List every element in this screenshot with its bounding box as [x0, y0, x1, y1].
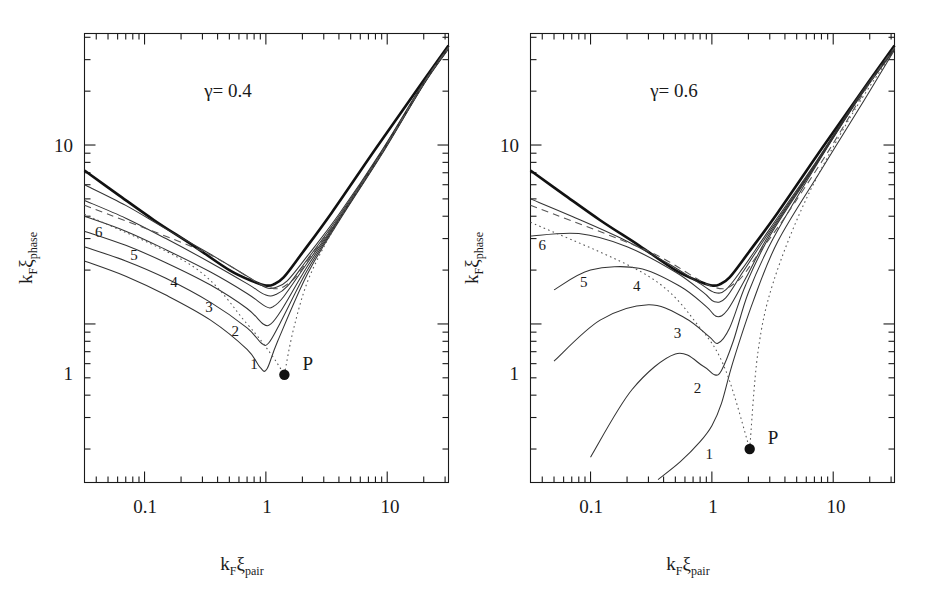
curve-group-left [85, 45, 449, 374]
svg-text:kFξpair: kFξpair [220, 553, 263, 578]
svg-text:kFξpair: kFξpair [666, 553, 709, 578]
x-axis-k-r: k [666, 553, 676, 574]
y-axis-k: k [15, 274, 36, 284]
curve-envelope [531, 45, 895, 285]
curve-group-right [531, 45, 895, 479]
svg-text:kFξphase: kFξphase [15, 232, 40, 284]
axis-ticks-left [85, 34, 449, 483]
x-ticklabel-1-right: 1 [708, 496, 718, 517]
y-axis-sub-phase: phase [26, 232, 40, 259]
curve-label-4: 4 [633, 278, 641, 294]
curve-dotted-branch-right [284, 48, 448, 375]
curve-label-2: 2 [232, 323, 240, 339]
x-axis-k: k [220, 553, 230, 574]
curve-curve-6 [85, 47, 449, 289]
y-ticklabel-1-left: 1 [64, 363, 74, 384]
point-p-marker-right [745, 444, 755, 454]
figure-root: P γ= 0.4 654321 10 1 0.1 1 10 kFξpair kF… [0, 0, 940, 605]
x-axis-sub-pair: pair [245, 564, 264, 578]
curve-dashed-asymptote [531, 47, 895, 288]
curve-label-4: 4 [170, 274, 178, 290]
curve-curve-5 [531, 48, 895, 302]
curve-label-3: 3 [205, 299, 213, 315]
point-p-label-left: P [302, 353, 313, 374]
curve-curve-1 [658, 50, 894, 480]
curve-label-6: 6 [95, 224, 103, 240]
x-axis-label-right: kFξpair [666, 553, 709, 578]
curve-dashed-asymptote [85, 47, 449, 288]
plot-svg-right: P γ= 0.6 654321 10 1 0.1 1 10 kFξpair kF… [446, 0, 940, 605]
gamma-annotation-right: γ= 0.6 [649, 80, 698, 101]
axis-ticks-right [531, 34, 895, 483]
y-axis-sub-phase-r: phase [472, 232, 486, 259]
y-ticklabel-1-right: 1 [510, 363, 520, 384]
curve-curve-3 [85, 48, 449, 326]
curve-curve-4 [554, 49, 894, 317]
curve-curve-6 [531, 48, 895, 293]
plot-svg-left: P γ= 0.4 654321 10 1 0.1 1 10 kFξpair kF… [0, 0, 470, 605]
point-p-marker-left [279, 370, 289, 380]
x-ticklabel-0.1-left: 0.1 [133, 496, 157, 517]
x-ticklabel-10-right: 10 [827, 496, 846, 517]
x-axis-label-left: kFξpair [220, 553, 263, 578]
y-ticklabel-10-right: 10 [500, 135, 519, 156]
y-axis-label-left: kFξphase [15, 232, 40, 284]
curve-curve-2 [85, 49, 449, 346]
svg-text:kFξphase: kFξphase [461, 232, 486, 284]
y-ticklabel-10-left: 10 [54, 135, 73, 156]
plot-frame-left [85, 34, 449, 483]
plot-panel-gamma-0.4: P γ= 0.4 654321 10 1 0.1 1 10 kFξpair kF… [0, 0, 470, 605]
curve-dotted-branch-right [750, 50, 895, 449]
curve-label-2: 2 [694, 380, 702, 396]
y-axis-k-r: k [461, 274, 482, 284]
curve-curve-5 [85, 47, 449, 296]
curve-label-1: 1 [705, 446, 713, 462]
point-p-label-right: P [768, 427, 779, 448]
plot-frame-right [531, 34, 895, 483]
x-axis-sub-pair-r: pair [691, 564, 710, 578]
curve-label-3: 3 [674, 325, 682, 341]
curve-label-1: 1 [250, 356, 258, 372]
curve-label-5: 5 [580, 274, 588, 290]
y-axis-label-right: kFξphase [461, 232, 486, 284]
plot-panel-gamma-0.6: P γ= 0.6 654321 10 1 0.1 1 10 kFξpair kF… [446, 0, 940, 605]
gamma-annotation-left: γ= 0.4 [203, 80, 252, 101]
x-ticklabel-0.1-right: 0.1 [579, 496, 603, 517]
curve-label-6: 6 [539, 237, 547, 253]
curve-envelope [85, 45, 449, 285]
x-ticklabel-1-left: 1 [262, 496, 272, 517]
curve-labels-right: 654321 [539, 237, 713, 463]
x-ticklabel-10-left: 10 [381, 496, 400, 517]
curve-labels-left: 654321 [95, 224, 258, 372]
curve-label-5: 5 [130, 247, 138, 263]
curve-curve-4 [85, 48, 449, 308]
